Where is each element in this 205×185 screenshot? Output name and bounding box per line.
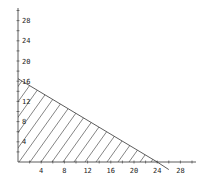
y-tick-label: 8 bbox=[22, 118, 26, 126]
y-tick-label: 28 bbox=[22, 17, 30, 25]
x-tick-label: 24 bbox=[153, 167, 161, 175]
x-tick-label: 16 bbox=[107, 167, 115, 175]
axes bbox=[18, 8, 196, 162]
x-tick-label: 4 bbox=[39, 167, 43, 175]
hatched-region bbox=[0, 22, 205, 162]
axis-ticks bbox=[17, 11, 193, 164]
x-tick-label: 28 bbox=[176, 167, 184, 175]
y-tick-label: 12 bbox=[22, 98, 30, 106]
y-tick-label: 24 bbox=[22, 37, 30, 45]
chart: 481216202428481216202428 bbox=[0, 0, 205, 185]
x-tick-label: 8 bbox=[62, 167, 66, 175]
boundary-line bbox=[18, 79, 169, 170]
x-tick-label: 20 bbox=[130, 167, 138, 175]
y-tick-label: 20 bbox=[22, 58, 30, 66]
y-tick-label: 4 bbox=[22, 138, 26, 146]
x-tick-label: 12 bbox=[83, 167, 91, 175]
